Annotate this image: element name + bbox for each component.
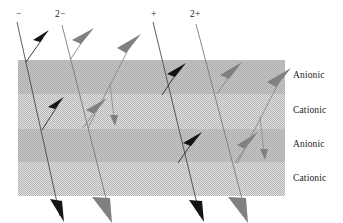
species-label-double-minus: 2− [55, 9, 66, 19]
layer-label-cationic-2: Cationic [293, 173, 326, 183]
figure-canvas: − 2− + 2+ Anionic Cationic Anionic Catio… [0, 0, 343, 223]
membrane-layer-cationic-1 [18, 94, 285, 129]
membrane-layer-stack [18, 60, 285, 196]
figure-svg [0, 0, 343, 223]
terminal-arrowhead [50, 199, 64, 222]
terminal-arrowhead [92, 197, 112, 223]
layer-label-anionic-2: Anionic [293, 139, 325, 149]
species-label-minus: − [16, 9, 22, 19]
membrane-layer-anionic-1 [18, 60, 285, 94]
branch-arrowhead [33, 30, 49, 42]
species-label-double-plus: 2+ [190, 9, 201, 19]
species-label-plus: + [151, 9, 157, 19]
terminal-arrowhead [189, 200, 204, 222]
terminal-arrowhead [117, 34, 141, 53]
branch-arrowhead [72, 28, 94, 44]
branch-line [26, 38, 43, 62]
terminal-arrowhead [228, 197, 248, 223]
layer-label-cationic-1: Cationic [293, 105, 326, 115]
membrane-layer-cationic-2 [18, 162, 285, 196]
layer-label-anionic-1: Anionic [293, 70, 325, 80]
